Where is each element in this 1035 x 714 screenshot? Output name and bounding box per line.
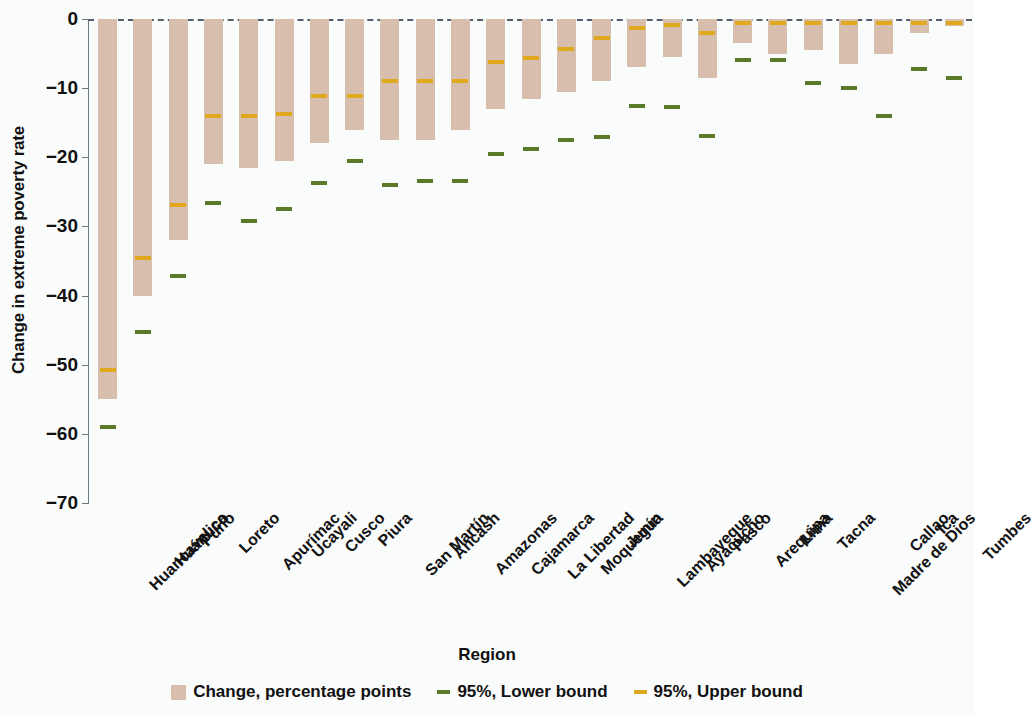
x-axis-title-text: Region	[458, 645, 516, 664]
bar	[839, 19, 858, 64]
upper-bound-marker	[805, 21, 821, 25]
bar	[557, 19, 576, 92]
x-axis-tick-label: Tacna	[834, 509, 879, 554]
legend-item-label: 95%, Upper bound	[654, 682, 803, 702]
lower-bound-marker	[452, 179, 468, 183]
upper-bound-marker	[488, 60, 504, 64]
lower-bound-marker	[699, 134, 715, 138]
upper-bound-marker	[276, 112, 292, 116]
bar	[451, 19, 470, 130]
upper-bound-marker	[664, 23, 680, 27]
upper-bound-marker	[100, 368, 116, 372]
lower-bound-marker	[170, 274, 186, 278]
lower-bound-marker	[488, 152, 504, 156]
lower-bound-marker	[594, 135, 610, 139]
lower-bound-marker	[382, 183, 398, 187]
lower-bound-marker	[135, 330, 151, 334]
y-axis-tick-mark	[82, 503, 89, 504]
legend-item-label: Change, percentage points	[193, 682, 411, 702]
upper-bound-marker	[699, 31, 715, 35]
bar	[310, 19, 329, 143]
bar	[275, 19, 294, 161]
legend-upper-bound-dash-icon	[634, 690, 647, 694]
bar	[169, 19, 188, 240]
lower-bound-marker	[558, 138, 574, 142]
upper-bound-marker	[876, 21, 892, 25]
legend-item: Change, percentage points	[171, 682, 411, 702]
bar	[486, 19, 505, 109]
upper-bound-marker	[311, 94, 327, 98]
upper-bound-marker	[241, 114, 257, 118]
upper-bound-marker	[735, 21, 751, 25]
legend-lower-bound-dash-icon	[437, 690, 450, 694]
upper-bound-marker	[205, 114, 221, 118]
lower-bound-marker	[876, 114, 892, 118]
upper-bound-marker	[841, 21, 857, 25]
bar	[98, 19, 117, 399]
x-axis-tick-label: Tumbes	[980, 509, 1035, 564]
legend-item: 95%, Lower bound	[437, 682, 607, 702]
x-axis-tick-labels: HuancavelicaHuánucoPunoLoretoApurímacUca…	[0, 509, 974, 639]
upper-bound-marker	[594, 36, 610, 40]
lower-bound-marker	[911, 67, 927, 71]
upper-bound-marker	[629, 26, 645, 30]
legend-bar-swatch-icon	[171, 685, 186, 700]
bar	[239, 19, 258, 168]
lower-bound-marker	[629, 104, 645, 108]
bar	[133, 19, 152, 296]
chart-legend: Change, percentage points95%, Lower boun…	[0, 682, 974, 702]
upper-bound-marker	[347, 94, 363, 98]
lower-bound-marker	[311, 181, 327, 185]
lower-bound-marker	[770, 58, 786, 62]
lower-bound-marker	[805, 81, 821, 85]
lower-bound-marker	[241, 219, 257, 223]
upper-bound-marker	[382, 79, 398, 83]
lower-bound-marker	[276, 207, 292, 211]
lower-bound-marker	[946, 76, 962, 80]
upper-bound-marker	[452, 79, 468, 83]
lower-bound-marker	[100, 425, 116, 429]
lower-bound-marker	[205, 201, 221, 205]
upper-bound-marker	[946, 21, 962, 25]
upper-bound-marker	[911, 21, 927, 25]
upper-bound-marker	[523, 56, 539, 60]
upper-bound-marker	[417, 79, 433, 83]
lower-bound-marker	[735, 58, 751, 62]
lower-bound-marker	[417, 179, 433, 183]
lower-bound-marker	[664, 105, 680, 109]
upper-bound-marker	[558, 47, 574, 51]
bar	[204, 19, 223, 164]
legend-item: 95%, Upper bound	[634, 682, 803, 702]
plot-area	[0, 0, 974, 503]
lower-bound-marker	[347, 159, 363, 163]
x-axis-tick-label: Puno	[198, 509, 239, 550]
lower-bound-marker	[841, 86, 857, 90]
legend-item-label: 95%, Lower bound	[457, 682, 607, 702]
bar	[592, 19, 611, 81]
bar	[345, 19, 364, 130]
x-axis-title: Region	[0, 645, 974, 665]
upper-bound-marker	[170, 203, 186, 207]
bar	[698, 19, 717, 78]
upper-bound-marker	[135, 256, 151, 260]
upper-bound-marker	[770, 21, 786, 25]
lower-bound-marker	[523, 147, 539, 151]
x-axis-tick-label: Loreto	[236, 509, 284, 557]
